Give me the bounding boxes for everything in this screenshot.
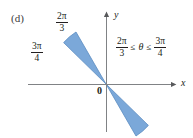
sector-lower-right [106, 84, 148, 136]
fraction-denominator: 3 [56, 23, 68, 33]
sector-upper-left [64, 32, 106, 84]
x-axis-label: x [181, 78, 185, 88]
polar-inequality-figure: (d) 2π 3 3π 4 2π 3 ≤ θ ≤ 3π 4 y x [0, 0, 193, 138]
fraction-numerator: 2π [116, 36, 128, 46]
fraction-numerator: 3π [31, 41, 43, 51]
inequality-left-fraction: 2π 3 [116, 36, 128, 59]
part-label: (d) [11, 13, 24, 24]
fraction-denominator: 3 [116, 48, 128, 58]
inequality-right-fraction: 3π 4 [154, 36, 166, 59]
fraction-numerator: 3π [154, 36, 166, 46]
y-axis-label: y [114, 10, 118, 20]
fraction-2pi-over-3: 2π 3 [56, 11, 68, 34]
relation-left: ≤ [131, 43, 136, 52]
figure-canvas [0, 0, 193, 138]
origin-label: 0 [97, 86, 102, 96]
fraction-denominator: 4 [31, 53, 43, 63]
angle-label-lower: 3π 4 [31, 41, 43, 64]
theta-symbol: θ [139, 42, 144, 52]
relation-right: ≤ [146, 43, 151, 52]
fraction-denominator: 4 [154, 48, 166, 58]
inequality-expression: 2π 3 ≤ θ ≤ 3π 4 [116, 36, 166, 59]
fraction-3pi-over-4: 3π 4 [31, 41, 43, 64]
angle-label-upper: 2π 3 [56, 11, 68, 34]
fraction-numerator: 2π [56, 11, 68, 21]
